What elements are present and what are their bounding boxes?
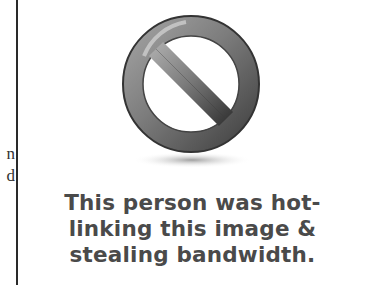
fragment-line: d — [7, 167, 16, 184]
hotlink-warning-caption: This person was hot- linking this image … — [18, 190, 367, 268]
caption-line: linking this image & — [18, 216, 367, 242]
caption-line: stealing bandwidth. — [18, 242, 367, 268]
caption-line: This person was hot- — [18, 190, 367, 216]
fragment-line: n — [7, 145, 16, 162]
cropped-text-fragment: n d — [0, 0, 16, 285]
prohibited-icon — [116, 8, 266, 173]
